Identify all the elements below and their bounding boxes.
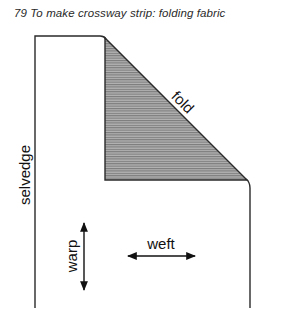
selvedge-label: selvedge — [16, 145, 33, 205]
warp-label: warp — [63, 240, 80, 273]
fabric-diagram — [0, 0, 293, 324]
fabric-outline-right — [246, 179, 250, 308]
folded-triangle — [105, 38, 247, 180]
weft-label: weft — [147, 235, 175, 252]
